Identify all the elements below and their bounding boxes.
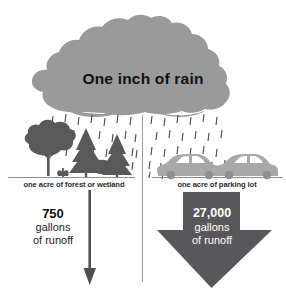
parking-runoff-unit-line1: gallons — [176, 221, 248, 234]
page-title: One inch of rain — [0, 70, 286, 88]
parking-runoff-label: 27,000 gallons of runoff — [176, 206, 248, 247]
forest-runoff-unit-line2: of runoff — [18, 234, 88, 247]
parked-cars-icon — [157, 154, 278, 179]
caption-parking: one acre of parking lot — [155, 180, 279, 189]
forest-runoff-label: 750 gallons of runoff — [18, 206, 88, 247]
infographic-graphics — [0, 0, 286, 307]
rain-cloud-icon — [32, 15, 230, 117]
runoff-comparison-infographic: One inch of rain one acre of forest or w… — [0, 0, 286, 307]
forest-runoff-unit-line1: gallons — [18, 221, 88, 234]
forest-trees-icon — [25, 120, 132, 178]
parking-runoff-value: 27,000 — [176, 206, 248, 221]
caption-forest: one acre of forest or wetland — [8, 180, 140, 189]
parking-runoff-unit-line2: of runoff — [176, 234, 248, 247]
forest-runoff-value: 750 — [18, 206, 88, 221]
